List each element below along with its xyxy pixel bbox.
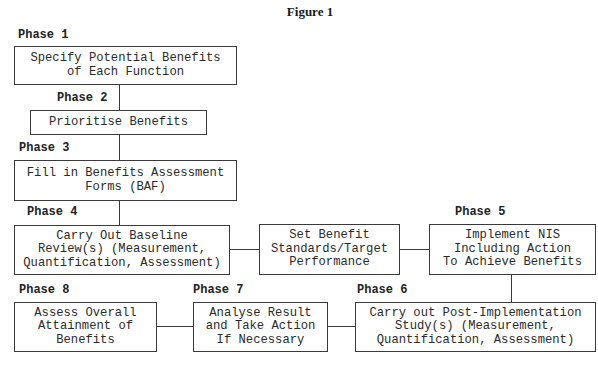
phase-3-label: Phase 3 xyxy=(19,141,69,155)
phase-2-box: Prioritise Benefits xyxy=(30,110,207,135)
phase-4-box: Carry Out Baseline Review(s) (Measuremen… xyxy=(14,225,230,275)
figure-title: Figure 1 xyxy=(0,4,598,20)
phase-3-box: Fill in Benefits Assessment Forms (BAF) xyxy=(14,160,237,201)
phase-5-label: Phase 5 xyxy=(455,205,505,219)
phase-7-label: Phase 7 xyxy=(193,283,243,297)
connector-phase5-phase6 xyxy=(511,275,512,302)
phase-7-box: Analyse Result and Take Action If Necess… xyxy=(193,302,328,352)
phase-4-label: Phase 4 xyxy=(27,205,77,219)
connector-phase1-phase2 xyxy=(119,85,120,110)
phase-1-box: Specify Potential Benefits of Each Funct… xyxy=(14,46,237,85)
set-benefit-standards-box: Set Benefit Standards/Target Performance xyxy=(259,224,400,275)
phase-6-label: Phase 6 xyxy=(357,283,407,297)
connector-phase2-phase3 xyxy=(119,135,120,160)
phase-2-label: Phase 2 xyxy=(57,91,107,105)
connector-phase7-phase8 xyxy=(157,326,193,327)
connector-standards-phase5 xyxy=(400,249,429,250)
phase-1-label: Phase 1 xyxy=(18,28,68,42)
connector-phase4-standards xyxy=(230,249,259,250)
connector-phase6-phase7 xyxy=(328,326,355,327)
phase-5-box: Implement NIS Including Action To Achiev… xyxy=(429,224,596,275)
flow-diagram: Figure 1 Phase 1 Specify Potential Benef… xyxy=(0,0,598,372)
connector-phase3-phase4 xyxy=(119,201,120,225)
phase-6-box: Carry out Post-Implementation Study(s) (… xyxy=(355,302,596,352)
phase-8-box: Assess Overall Attainment of Benefits xyxy=(14,302,157,352)
phase-8-label: Phase 8 xyxy=(19,283,69,297)
